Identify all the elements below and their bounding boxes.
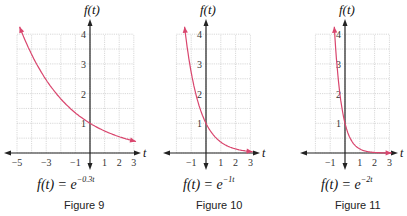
arrow-left-icon: [300, 151, 307, 156]
x-axis-label: t: [262, 146, 266, 160]
arrow-left-icon: [163, 151, 170, 156]
exponential-curve: [20, 27, 136, 142]
exponential-curve: [185, 27, 253, 152]
equation-fig10: f(t) = e−1t: [183, 175, 234, 193]
x-tick: 2: [233, 157, 238, 168]
arrow-left-icon: [4, 151, 11, 156]
caption-fig10: Figure 10: [196, 199, 242, 211]
y-tick: 3: [197, 59, 202, 70]
equation-fig11: f(t) = e−2t: [321, 175, 372, 193]
curve-arrow-icon: [19, 27, 24, 34]
y-tick: 4: [81, 29, 86, 40]
chart-9: f(t)t1234−5−3−1123: [4, 2, 147, 170]
x-tick: 1: [102, 157, 107, 168]
arrow-right-icon: [391, 151, 398, 156]
caption-fig9: Figure 9: [64, 199, 104, 211]
x-tick: 2: [117, 157, 122, 168]
x-tick: −1: [186, 157, 197, 168]
y-tick: 4: [197, 29, 202, 40]
x-tick: 3: [387, 157, 392, 168]
arrow-down-icon: [88, 163, 93, 170]
chart-10: f(t)t1234−1123: [163, 2, 266, 170]
y-tick: 1: [336, 118, 341, 129]
x-tick: 1: [218, 157, 223, 168]
y-tick: 2: [197, 89, 202, 100]
x-tick: 3: [131, 157, 136, 168]
x-axis-label: t: [143, 146, 147, 160]
y-tick: 4: [336, 29, 341, 40]
arrow-up-icon: [204, 19, 209, 26]
grid: [315, 34, 389, 153]
equation-fig9: f(t) = e−0.3t: [37, 175, 94, 193]
caption-fig11: Figure 11: [335, 199, 381, 211]
arrow-right-icon: [134, 151, 141, 156]
x-tick: 1: [357, 157, 362, 168]
x-axis-label: t: [400, 146, 404, 160]
arrow-up-icon: [343, 19, 348, 26]
chart-11: f(t)t1234−1123: [300, 2, 404, 170]
arrow-up-icon: [88, 19, 93, 26]
arrow-right-icon: [253, 151, 260, 156]
curve-arrow-icon: [386, 150, 392, 155]
arrow-down-icon: [204, 163, 209, 170]
y-axis-label: f(t): [339, 2, 355, 17]
x-tick: −1: [325, 157, 336, 168]
y-axis-label: f(t): [200, 2, 216, 17]
x-tick: 2: [372, 157, 377, 168]
y-tick: 2: [81, 89, 86, 100]
y-tick: 1: [197, 118, 202, 129]
y-axis-label: f(t): [84, 2, 100, 17]
arrow-down-icon: [343, 163, 348, 170]
exponential-curve: [334, 27, 391, 153]
x-tick: −5: [12, 157, 23, 168]
x-tick: −1: [70, 157, 81, 168]
y-tick: 3: [81, 59, 86, 70]
x-tick: 3: [248, 157, 253, 168]
x-tick: −3: [41, 157, 52, 168]
